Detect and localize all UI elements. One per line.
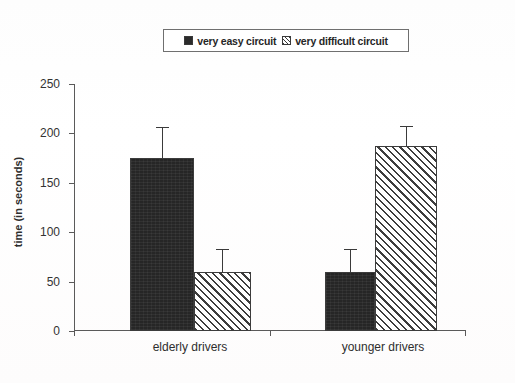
legend-item-very-easy-circuit: very easy circuit [184, 35, 276, 47]
bar-chart-figure: very easy circuit very difficult circuit… [0, 0, 515, 383]
y-tick-50: 50 [69, 282, 74, 283]
errorbar-stem [406, 127, 407, 147]
errorbar-cap [156, 127, 169, 128]
y-tick-200: 200 [69, 133, 74, 134]
y-tick-150: 150 [69, 183, 74, 184]
errorbar-cap [400, 126, 413, 127]
y-tick-label-50: 50 [47, 275, 60, 289]
errorbar-cap [216, 249, 229, 250]
bar-elderly-very-difficult [194, 272, 251, 331]
legend-swatch-solid-icon [184, 36, 193, 45]
y-axis-line [74, 84, 75, 331]
bar-younger-very-easy [325, 272, 375, 331]
errorbar-stem [350, 250, 351, 272]
x-category-label-elderly-drivers: elderly drivers [153, 340, 228, 354]
legend-swatch-hatch-icon [282, 36, 291, 45]
plot-area: 250 200 150 100 50 0 time (in seconds) [74, 84, 466, 331]
errorbar-stem [162, 128, 163, 158]
bar-elderly-very-easy [130, 158, 194, 331]
legend-item-very-difficult-circuit: very difficult circuit [282, 35, 387, 47]
y-axis-label: time (in seconds) [12, 157, 24, 247]
y-tick-label-150: 150 [40, 176, 60, 190]
errorbar-stem [222, 250, 223, 272]
y-tick-100: 100 [69, 232, 74, 233]
chart-legend: very easy circuit very difficult circuit [163, 29, 409, 52]
x-tick-group-divider [270, 331, 271, 336]
legend-label-very-easy-circuit: very easy circuit [197, 35, 276, 47]
x-tick-end [465, 331, 466, 336]
errorbar-cap [344, 249, 357, 250]
y-tick-250: 250 [69, 84, 74, 85]
x-tick-start [74, 331, 75, 336]
legend-label-very-difficult-circuit: very difficult circuit [295, 35, 387, 47]
y-tick-label-200: 200 [40, 126, 60, 140]
bar-younger-very-difficult [375, 146, 437, 331]
x-category-label-younger-drivers: younger drivers [342, 340, 425, 354]
y-tick-label-250: 250 [40, 77, 60, 91]
y-tick-label-0: 0 [53, 324, 60, 338]
y-tick-label-100: 100 [40, 225, 60, 239]
